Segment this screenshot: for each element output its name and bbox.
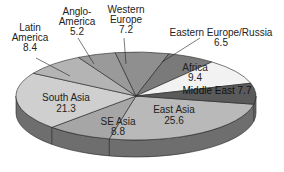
- label-eastern-europe-russia: Eastern Europe/Russia6.5: [170, 27, 273, 48]
- label-western-europe: WesternEurope7.2: [107, 4, 144, 35]
- label-anglo-america: Anglo-America5.2: [59, 6, 96, 37]
- label-latin-america: LatinAmerica8.4: [12, 22, 49, 53]
- label-middle-east: Middle East 7.7: [183, 85, 252, 96]
- pie-chart: LatinAmerica8.4 Anglo-America5.2 Western…: [0, 0, 284, 172]
